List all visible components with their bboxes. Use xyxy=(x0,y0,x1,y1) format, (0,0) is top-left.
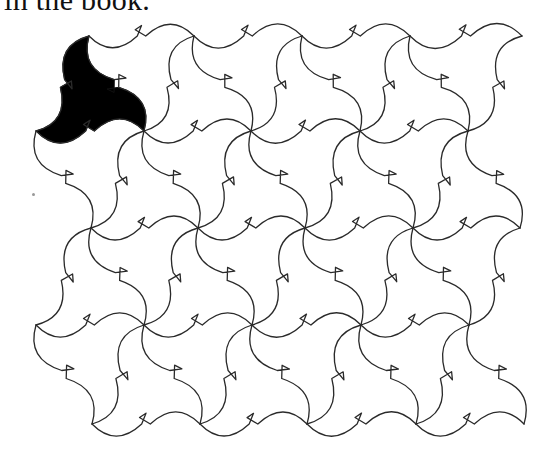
tile-edge-diagonal xyxy=(89,228,147,325)
tile-edge-diagonal xyxy=(468,36,522,131)
tile-edge-diagonal xyxy=(142,325,202,424)
tile-edge-diagonal xyxy=(411,228,471,325)
tile-edge-diagonal xyxy=(303,228,363,325)
tile-edge-diagonal xyxy=(36,228,91,325)
tile-edge-diagonal xyxy=(358,131,416,228)
tile-edge-diagonal xyxy=(466,131,523,228)
tile-edge-diagonal xyxy=(200,325,252,424)
tile-edge-diagonal xyxy=(416,325,469,424)
highlighted-tile-group xyxy=(36,36,146,143)
tile-edge-diagonal xyxy=(252,228,305,325)
tessellation-figure xyxy=(0,0,549,450)
tile-edge-diagonal xyxy=(198,131,251,228)
tile-edge-diagonal xyxy=(360,36,410,131)
tile-edge-diagonal xyxy=(144,36,194,131)
tile-edge-diagonal xyxy=(142,131,200,228)
tile-edge-diagonal xyxy=(359,325,418,424)
shaded-bird-tile xyxy=(36,36,146,143)
tile-edge-diagonal xyxy=(467,325,526,424)
tile-edge-diagonal xyxy=(92,325,144,424)
tile-edge-diagonal xyxy=(361,228,413,325)
tile-edge-diagonal xyxy=(469,228,520,325)
tile-edge-diagonal xyxy=(34,325,94,424)
stray-dot xyxy=(32,193,35,196)
tile-edge-diagonal xyxy=(305,131,360,228)
tile-edge-diagonal xyxy=(307,325,361,424)
tile-edge-diagonal xyxy=(300,36,361,131)
tile-edge-diagonal xyxy=(196,228,254,325)
tile-edge-diagonal xyxy=(251,36,302,131)
tile-edge-diagonal xyxy=(144,228,198,325)
tile-edge-diagonal xyxy=(250,325,309,424)
tile-edge-diagonal xyxy=(34,131,93,228)
tile-edge-diagonal xyxy=(249,131,307,228)
tile-edge-diagonal xyxy=(91,131,144,228)
tile-edge-diagonal xyxy=(192,36,252,131)
tile-edge-diagonal xyxy=(413,131,468,228)
tile-edge-diagonal xyxy=(408,36,469,131)
